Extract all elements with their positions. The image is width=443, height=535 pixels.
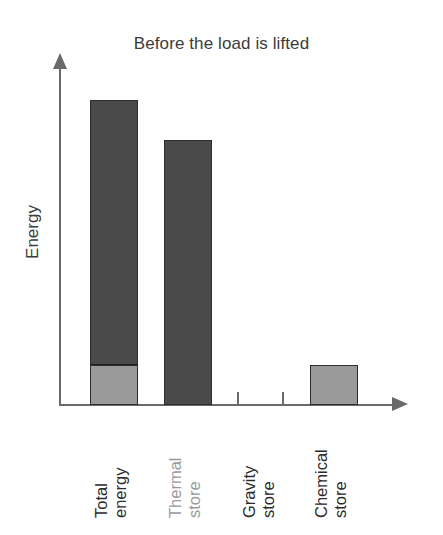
y-axis-title: Energy <box>23 177 43 287</box>
x-axis-label-line2: store <box>259 398 278 518</box>
y-axis-line <box>59 66 61 406</box>
x-axis-label-line1: Total <box>92 398 111 518</box>
x-axis-label-line1: Gravity <box>240 398 259 518</box>
x-axis-arrow-icon <box>392 397 408 411</box>
x-axis-label-line2: store <box>185 398 204 518</box>
x-axis-label-line2: energy <box>111 398 130 518</box>
x-axis-label-line1: Thermal <box>166 398 185 518</box>
x-axis-label-thermal-store: Thermal store <box>166 398 204 518</box>
chart-title: Before the load is lifted <box>0 34 443 54</box>
plot-area <box>0 0 443 535</box>
x-axis-label-gravity-store: Gravity store <box>240 398 278 518</box>
bar-thermal-store-thermal <box>164 140 212 405</box>
y-axis-arrow-icon <box>53 53 67 69</box>
energy-bar-chart-figure: Before the load is lifted Energy Total e… <box>0 0 443 535</box>
x-axis-label-chemical-store: Chemical store <box>312 398 350 518</box>
bar-total-energy-thermal <box>90 100 138 365</box>
x-axis-label-line1: Chemical <box>312 398 331 518</box>
x-axis-label-line2: store <box>331 398 350 518</box>
x-axis-label-total-energy: Total energy <box>92 398 130 518</box>
